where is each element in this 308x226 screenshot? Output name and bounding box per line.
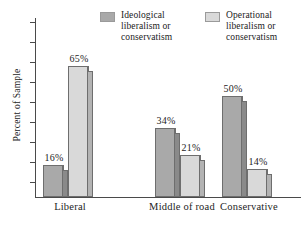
bar: 21% (180, 155, 200, 197)
bar: 50% (222, 96, 242, 197)
bar-top-face (242, 96, 248, 101)
bar-side-face (200, 160, 205, 197)
bar: 16% (43, 165, 63, 197)
bar-value-label: 21% (174, 142, 208, 153)
bar-front-face (43, 165, 63, 197)
bar-front-face (155, 128, 175, 197)
x-axis-category-label: Liberal (10, 201, 130, 212)
bar-group: 16%65% (43, 18, 103, 197)
bar-top-face (267, 169, 273, 174)
plot-area: 16%65%34%21%50%14% (35, 18, 301, 197)
bar-top-face (175, 128, 181, 133)
bar-front-face (68, 66, 88, 197)
bar-value-label: 34% (149, 115, 183, 126)
bar-chart: Ideological liberalism or conservatism O… (0, 0, 308, 226)
bar-value-label: 50% (216, 83, 250, 94)
bar-side-face (267, 174, 272, 197)
bar-value-label: 16% (37, 152, 71, 163)
bar: 14% (247, 169, 267, 197)
bar-value-label: 14% (241, 156, 275, 167)
bar-group: 34%21% (155, 18, 215, 197)
bar: 34% (155, 128, 175, 197)
x-axis-category-label: Conservative (189, 201, 308, 212)
bar-top-face (200, 155, 206, 160)
y-axis-title: Percent of Sample (12, 45, 22, 165)
bar-group: 50%14% (222, 18, 282, 197)
bar-value-label: 65% (62, 53, 96, 64)
bar-front-face (247, 169, 267, 197)
bar-front-face (180, 155, 200, 197)
bar-side-face (88, 71, 93, 197)
x-axis-line (35, 197, 301, 198)
bar-front-face (222, 96, 242, 197)
bar-top-face (88, 66, 94, 71)
bar: 65% (68, 66, 88, 197)
